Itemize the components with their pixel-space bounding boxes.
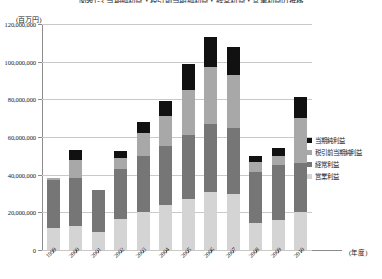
legend-swatch-icon <box>307 150 312 155</box>
bar-segment <box>159 116 172 146</box>
bar-segment <box>249 172 262 223</box>
y-axis-tick <box>38 175 42 176</box>
bar-segment <box>249 156 262 163</box>
bar-segment <box>182 90 195 135</box>
bar-segment <box>227 194 240 251</box>
y-axis-tick-label: 60,000,000 <box>8 134 36 141</box>
bar-segment <box>272 165 285 220</box>
bar-segment <box>294 212 307 250</box>
bar-segment <box>159 101 172 116</box>
bar-segment <box>227 75 240 128</box>
financial-bar-chart: 図表1-3 当期純利益・税引前当期純利益・経常利益・営業利益の推移 (百万円) … <box>0 0 382 279</box>
bar-segment <box>227 47 240 75</box>
bar-stack <box>69 24 82 250</box>
y-axis-tick-label: 40,000,000 <box>8 171 36 178</box>
bar-segment <box>137 133 150 156</box>
bar-segment <box>182 135 195 199</box>
bar-segment <box>114 158 127 169</box>
y-axis-tick <box>38 250 42 251</box>
y-axis-tick-label: 120,000,000 <box>5 21 36 28</box>
bar-segment <box>92 190 105 232</box>
legend-item: 営業利益 <box>307 170 381 182</box>
y-axis-tick-label: 100,000,000 <box>5 58 36 65</box>
bar-segment <box>294 163 307 212</box>
bar-segment <box>47 178 60 180</box>
y-axis-tick <box>38 212 42 213</box>
bar-segment <box>137 212 150 250</box>
y-axis-tick <box>38 99 42 100</box>
bar-stack <box>182 24 195 250</box>
legend-item: 当期純利益 <box>307 134 381 146</box>
bar-segment <box>114 151 127 158</box>
bar-segment <box>159 205 172 250</box>
chart-legend: 当期純利益税引前当期純利益経常利益営業利益 <box>307 134 381 182</box>
bar-segment <box>204 192 217 250</box>
bar-segment <box>114 169 127 219</box>
bar-segment <box>69 160 82 179</box>
bar-stack <box>159 24 172 250</box>
legend-item-label: 税引前当期純利益 <box>315 148 362 157</box>
plot-area: 020,000,00040,000,00060,000,00080,000,00… <box>42 24 312 250</box>
legend-swatch-icon <box>307 162 312 167</box>
y-axis-tick <box>38 137 42 138</box>
bar-stack <box>114 24 127 250</box>
bar-stack <box>294 24 307 250</box>
y-axis-tick <box>38 24 42 25</box>
bar-stack <box>137 24 150 250</box>
bar-stack <box>92 24 105 250</box>
y-axis-tick-label: 20,000,000 <box>8 209 36 216</box>
legend-item: 税引前当期純利益 <box>307 146 381 158</box>
legend-swatch-icon <box>307 174 312 179</box>
bar-stack <box>249 24 262 250</box>
bar-segment <box>272 148 285 156</box>
bar-segment <box>249 162 262 171</box>
bar-segment <box>204 67 217 124</box>
y-axis-tick <box>38 62 42 63</box>
y-axis-tick-label: 0 <box>33 247 36 254</box>
bar-stack <box>227 24 240 250</box>
bar-segment <box>182 199 195 250</box>
bar-segment <box>294 118 307 163</box>
bar-segment <box>204 124 217 192</box>
bar-segment <box>69 178 82 225</box>
bar-segment <box>47 180 60 228</box>
legend-item-label: 当期純利益 <box>315 136 345 145</box>
legend-item-label: 営業利益 <box>315 172 339 181</box>
bar-stack <box>204 24 217 250</box>
bar-segment <box>182 64 195 90</box>
legend-item-label: 経常利益 <box>315 160 339 169</box>
bar-segment <box>159 146 172 204</box>
bar-segment <box>137 156 150 213</box>
bar-segment <box>137 122 150 133</box>
bar-segment <box>69 150 82 159</box>
bar-stack <box>47 24 60 250</box>
bar-segment <box>272 156 285 165</box>
bar-segment <box>204 37 217 67</box>
bar-stack <box>272 24 285 250</box>
bar-segment <box>227 128 240 194</box>
bar-segment <box>294 97 307 118</box>
legend-swatch-icon <box>307 138 312 143</box>
chart-title: 図表1-3 当期純利益・税引前当期純利益・経常利益・営業利益の推移 <box>0 0 382 3</box>
x-axis-title: (年度) <box>349 247 367 257</box>
legend-item: 経常利益 <box>307 158 381 170</box>
y-axis-tick-label: 80,000,000 <box>8 96 36 103</box>
